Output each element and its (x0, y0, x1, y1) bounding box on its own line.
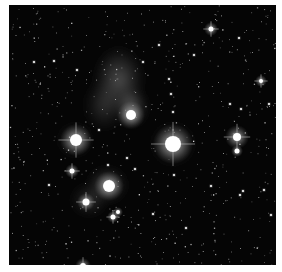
star-asterope-b (113, 207, 123, 217)
astro-image-frame: Pleiades star cluster (grayscale astroph… (9, 5, 276, 265)
star-right-star (254, 74, 267, 87)
star-celaeno (64, 163, 79, 178)
pleiades-star-field-image (9, 5, 276, 265)
star-maia (94, 171, 124, 201)
star-pleione (231, 145, 243, 157)
star-merope (117, 101, 145, 129)
bright-stars (58, 21, 267, 265)
star-top-right-star (203, 21, 218, 36)
star-bottom-star (74, 257, 92, 265)
